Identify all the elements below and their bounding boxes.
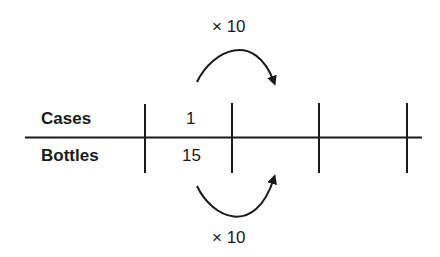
top-multiplier-label: × 10 — [212, 18, 246, 35]
bottom-arrow-arc — [197, 178, 274, 217]
row-label-bottles: Bottles — [41, 147, 99, 164]
row-label-cases: Cases — [41, 110, 91, 127]
top-arrow-arc — [197, 50, 274, 82]
ratio-table-lines — [0, 0, 440, 257]
bottom-multiplier-label: × 10 — [212, 229, 246, 246]
cell-cases-1: 1 — [186, 110, 195, 127]
cell-bottles-1: 15 — [182, 147, 201, 164]
